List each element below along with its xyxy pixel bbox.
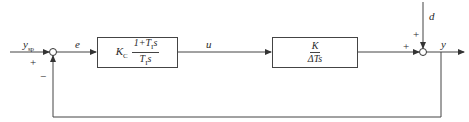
summing-junction-1 xyxy=(50,49,57,56)
sum1-plus-sign: + xyxy=(30,57,36,68)
process-transfer-fraction: K ΔTs xyxy=(308,41,322,65)
process-denominator: ΔTs xyxy=(308,53,322,65)
sum2-plus-sign-top: + xyxy=(413,29,419,40)
disturbance-label: d xyxy=(429,11,435,22)
diagram-wires xyxy=(0,0,469,122)
controller-numerator: 1+TIs xyxy=(132,38,160,53)
control-label: u xyxy=(206,39,212,50)
process-numerator: K xyxy=(310,41,321,54)
summing-junction-2 xyxy=(420,49,427,56)
sum2-plus-sign-left: + xyxy=(403,41,409,52)
controller-block: KC 1+TIs TIs xyxy=(97,37,178,68)
controller-transfer-fraction: 1+TIs TIs xyxy=(132,38,160,68)
sum1-minus-sign: − xyxy=(40,71,46,82)
setpoint-label: ysp xyxy=(23,39,34,53)
output-label: y xyxy=(441,39,446,50)
controller-gain: KC xyxy=(116,45,128,60)
error-label: e xyxy=(75,39,80,50)
process-block: K ΔTs xyxy=(272,37,358,68)
controller-denominator: TIs xyxy=(140,53,152,67)
